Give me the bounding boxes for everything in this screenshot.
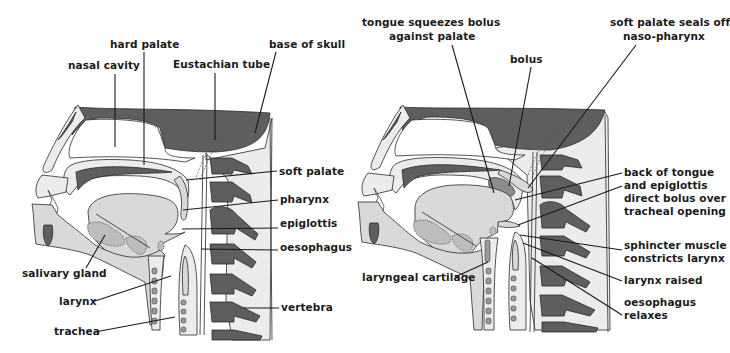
label-nasal-cavity: nasal cavity (68, 59, 140, 71)
label-soft-palate-seals-line1: soft palate seals off (610, 16, 730, 28)
label-oesophagus: oesophagus (280, 241, 352, 253)
label-bolus: bolus (510, 53, 543, 65)
left-panel-swallowing-at-rest: hard palate nasal cavity Eustachian tube… (22, 38, 352, 340)
label-oesophagus-relaxes-line1: oesophagus (624, 296, 696, 308)
left-spine-front (204, 155, 207, 335)
right-panel-swallowing-in-progress: tongue squeezes bolus against palate bol… (358, 16, 730, 332)
left-upper-lip (36, 175, 68, 198)
label-pharynx: pharynx (280, 193, 329, 205)
left-pharynx-wall (200, 155, 203, 335)
label-larynx: larynx (59, 295, 97, 307)
label-larynx-raised: larynx raised (624, 274, 703, 286)
label-soft-palate: soft palate (279, 165, 344, 177)
right-epiglottis-folded (498, 221, 520, 227)
label-trachea: trachea (54, 325, 100, 337)
right-upper-lip (362, 173, 394, 196)
label-tongue-squeezes-line1: tongue squeezes bolus (362, 16, 500, 28)
label-epiglottis: epiglottis (280, 217, 337, 229)
label-vertebra: vertebra (281, 301, 333, 313)
label-back-of-tongue-line1: back of tongue (624, 166, 714, 178)
label-hard-palate: hard palate (110, 38, 179, 50)
label-oesophagus-relaxes-line2: relaxes (624, 309, 668, 321)
label-laryngeal-cartilage: laryngeal cartilage (362, 271, 476, 283)
label-eustachian-tube: Eustachian tube (173, 58, 270, 70)
label-soft-palate-seals-line2: naso-pharynx (623, 30, 705, 42)
left-oesophagus-inner (182, 256, 188, 295)
swallowing-diagram-figure: hard palate nasal cavity Eustachian tube… (0, 0, 730, 353)
label-base-of-skull: base of skull (269, 38, 345, 50)
label-back-of-tongue-line3: direct bolus over (624, 192, 727, 204)
right-epiglottis-node (490, 227, 496, 235)
label-sphincter-line2: constricts larynx (624, 252, 725, 264)
diagram-canvas: hard palate nasal cavity Eustachian tube… (0, 0, 730, 353)
left-epiglottis-node (158, 241, 164, 251)
label-sphincter-line1: sphincter muscle (624, 239, 727, 251)
label-back-of-tongue-line4: tracheal opening (624, 205, 726, 217)
leader-trachea (95, 317, 175, 332)
label-tongue-squeezes-line2: against palate (389, 30, 476, 42)
label-back-of-tongue-line2: and epiglottis (624, 179, 708, 191)
right-laryngeal-cartilage (485, 240, 490, 262)
label-salivary-gland: salivary gland (22, 267, 107, 279)
